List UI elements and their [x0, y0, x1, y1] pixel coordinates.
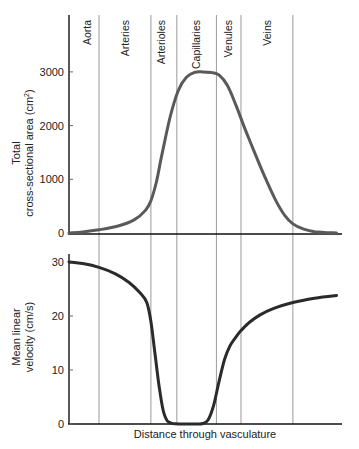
- top-ytick-label: 0: [58, 227, 64, 239]
- bottom-ytick-label: 30: [52, 256, 64, 268]
- top-ytick-label: 3000: [40, 66, 64, 78]
- vasculature-chart: AortaArteriesArteriolesCapillariesVenule…: [0, 0, 359, 449]
- velocity-curve: [69, 262, 337, 424]
- segment-label-veins: Veins: [261, 20, 273, 46]
- segment-label-aorta: Aorta: [81, 20, 93, 45]
- segment-label-arteries: Arteries: [119, 20, 131, 56]
- top-ylabel: Total: [10, 141, 22, 164]
- bottom-ytick-label: 20: [52, 310, 64, 322]
- top-ytick-label: 2000: [40, 120, 64, 132]
- top-ytick-label: 1000: [40, 173, 64, 185]
- segment-label-venules: Venules: [222, 20, 234, 57]
- segment-label-arterioles: Arterioles: [155, 20, 167, 64]
- bottom-ytick-label: 10: [52, 364, 64, 376]
- bottom-ytick-label: 0: [58, 418, 64, 430]
- top-ylabel-2: cross-sectional area (cm2): [23, 89, 35, 216]
- bottom-panel-axes: 0102030: [52, 254, 342, 430]
- area-curve: [69, 72, 337, 233]
- bottom-ylabel-2: velocity (cm/s): [23, 302, 35, 372]
- bottom-xlabel: Distance through vasculature: [134, 428, 276, 440]
- bottom-ylabel: Mean linear: [10, 308, 22, 366]
- segment-label-capillaries: Capillaries: [190, 20, 202, 69]
- segment-dividers: [99, 15, 293, 424]
